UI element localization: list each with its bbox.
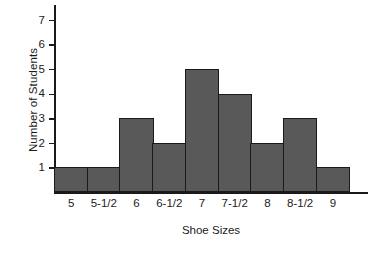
y-tick-label: 6 bbox=[39, 39, 45, 51]
histogram-chart: Number of Students 1234567 55-1/266-1/27… bbox=[0, 0, 376, 256]
x-tick-label: 8 bbox=[250, 198, 284, 210]
x-tick-label: 6 bbox=[119, 198, 153, 210]
bar bbox=[87, 167, 121, 192]
plot-area: 1234567 bbox=[54, 5, 368, 193]
x-tick-label: 7 bbox=[185, 198, 219, 210]
x-tick-label: 5-1/2 bbox=[87, 198, 121, 210]
x-tick-label: 6-1/2 bbox=[152, 198, 186, 210]
x-axis-title: Shoe Sizes bbox=[54, 224, 368, 236]
y-tick-label: 4 bbox=[39, 89, 45, 101]
y-tick-label: 5 bbox=[39, 64, 45, 76]
y-tick-label: 1 bbox=[39, 162, 45, 174]
x-tick-label: 7-1/2 bbox=[218, 198, 252, 210]
x-tick-label: 5 bbox=[54, 198, 88, 210]
bar bbox=[119, 118, 153, 192]
bar-series bbox=[54, 5, 368, 193]
bar bbox=[218, 94, 252, 192]
bar bbox=[185, 69, 219, 192]
y-tick-label: 7 bbox=[39, 15, 45, 27]
bar bbox=[283, 118, 317, 192]
y-tick-label: 2 bbox=[39, 138, 45, 150]
bar bbox=[250, 143, 284, 192]
x-tick-label: 8-1/2 bbox=[283, 198, 317, 210]
bar bbox=[152, 143, 186, 192]
y-tick-label: 3 bbox=[39, 113, 45, 125]
x-tick-label: 9 bbox=[316, 198, 350, 210]
bar bbox=[316, 167, 350, 192]
bar bbox=[54, 167, 88, 192]
x-axis-tick-labels: 55-1/266-1/277-1/288-1/29 bbox=[54, 198, 368, 216]
